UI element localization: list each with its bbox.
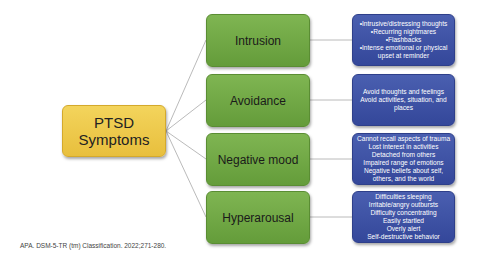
category-node-avoidance: Avoidance: [206, 74, 310, 127]
category-label: Hyperarousal: [222, 211, 293, 225]
category-label: Avoidance: [230, 94, 286, 108]
detail-line: others, and the world: [373, 175, 435, 183]
detail-line: Detached from others: [372, 151, 435, 159]
detail-line: •Intrusive/distressing thoughts: [360, 20, 448, 28]
detail-line: Self-destructive behavior: [367, 233, 440, 241]
detail-line: Lost interest in activities: [369, 143, 439, 151]
category-node-negative-mood: Negative mood: [206, 133, 310, 186]
citation: APA. DSM-5-TR (tm) Classification. 2022;…: [20, 242, 166, 249]
detail-line: Irritable/angry outbursts: [369, 201, 438, 209]
detail-line: Overly alert: [387, 225, 421, 233]
detail-line: Avoid activities, situation, and: [360, 96, 446, 104]
detail-line: Negative beliefs about self,: [364, 167, 443, 175]
detail-line: •Recurring nightmares: [371, 28, 436, 36]
detail-line: Difficulties sleeping: [375, 193, 431, 201]
detail-node-avoidance: Avoid thoughts and feelings Avoid activi…: [352, 74, 455, 126]
category-node-intrusion: Intrusion: [206, 14, 310, 67]
root-node-ptsd-symptoms: PTSD Symptoms: [62, 105, 166, 157]
detail-line: Easily startled: [383, 217, 424, 225]
detail-line: •Flashbacks: [386, 36, 422, 44]
detail-line: upset at reminder: [378, 52, 429, 60]
detail-node-intrusion: •Intrusive/distressing thoughts •Recurri…: [352, 14, 455, 66]
category-label: Negative mood: [218, 153, 299, 167]
detail-line: Difficulty concentrating: [370, 209, 436, 217]
detail-line: Cannot recall aspects of trauma: [357, 135, 450, 143]
category-label: Intrusion: [235, 34, 281, 48]
detail-line: Avoid thoughts and feelings: [363, 88, 444, 96]
detail-line: Impaired range of emotions: [363, 159, 443, 167]
detail-node-hyperarousal: Difficulties sleeping Irritable/angry ou…: [352, 191, 455, 243]
detail-line: places: [394, 104, 413, 112]
category-node-hyperarousal: Hyperarousal: [206, 191, 310, 244]
detail-node-negative-mood: Cannot recall aspects of trauma Lost int…: [352, 133, 455, 185]
root-label-line2: Symptoms: [79, 131, 150, 148]
root-label-line1: PTSD: [79, 114, 150, 131]
detail-line: •Intense emotional or physical: [360, 44, 448, 52]
